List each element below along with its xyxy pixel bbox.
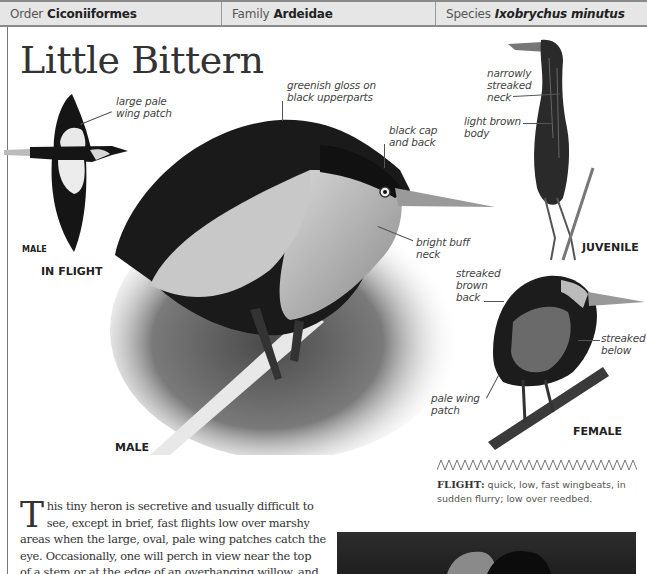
species-value: Ixobrychus minutus [495,7,625,21]
leader-line [578,340,600,341]
body-line: areas when the large, oval, pale wing pa… [20,531,330,548]
in-flight-sex-label: MALE [22,245,47,254]
callout-greenish-gloss: greenish gloss on black upperparts [287,79,376,103]
order-label: Order [10,7,43,21]
callout-pale-wing-patch: pale wing patch [431,392,480,416]
callout-line: light brown [464,115,521,127]
body-line: his tiny heron is secretive and usually … [20,498,330,515]
callout-bright-buff-neck: bright buff neck [416,236,469,260]
order-cell: Order Ciconiiformes [0,2,222,25]
habitat-photo [337,532,636,574]
species-cell: Species Ixobrychus minutus [436,2,647,25]
flight-label: FLIGHT: [437,479,485,490]
callout-narrowly-streaked-neck: narrowly streaked neck [487,67,531,103]
callout-line: neck [416,248,469,260]
species-label: Species [446,7,491,21]
callout-streaked-brown-back: streaked brown back [456,267,500,303]
callout-line: black cap [389,124,437,136]
page-title: Little Bittern [20,38,263,82]
flight-pattern-zigzag-icon [437,458,637,472]
family-cell: Family Ardeidae [222,2,436,25]
leader-line [282,101,283,121]
callout-line: brown [456,279,500,291]
callout-line: patch [431,404,480,416]
callout-black-cap-and-back: black cap and back [389,124,437,148]
callout-line: pale wing [431,392,480,404]
photo-bird-silhouette [337,532,636,574]
body-line: see, except in brief, fast flights low o… [20,515,330,532]
callout-streaked-below: streaked below [601,332,645,356]
callout-line: streaked [601,332,645,344]
body-line: eye. Occasionally, one will perch in vie… [20,548,330,565]
drop-cap: T [20,500,44,530]
callout-line: neck [487,91,531,103]
callout-line: narrowly [487,67,531,79]
taxonomy-header: Order Ciconiiformes Family Ardeidae Spec… [0,0,647,27]
in-flight-caption: IN FLIGHT [41,265,102,278]
body-line: of a stem or at the edge of an overhangi… [20,564,330,574]
callout-line: and back [389,136,437,148]
family-value: Ardeidae [273,7,332,21]
flight-description: FLIGHT: quick, low, fast wingbeats, in s… [437,478,647,506]
callout-line: large pale [116,95,172,107]
callout-line: greenish gloss on [287,79,376,91]
callout-light-brown-body: light brown body [464,115,521,139]
species-description: T his tiny heron is secretive and usuall… [20,498,330,574]
callout-line: below [601,344,645,356]
order-value: Ciconiiformes [47,7,137,21]
male-caption: MALE [115,441,149,454]
leader-line [384,144,385,168]
female-bird-illustration [483,272,645,450]
callout-line: streaked [456,267,500,279]
callout-line: streaked [487,79,531,91]
callout-line: black upperparts [287,91,376,103]
callout-line: bright buff [416,236,469,248]
callout-line: body [464,127,521,139]
leader-line [484,301,504,302]
juvenile-caption: JUVENILE [582,241,639,254]
family-label: Family [232,7,269,21]
leader-line [523,123,553,124]
female-caption: FEMALE [573,425,622,438]
